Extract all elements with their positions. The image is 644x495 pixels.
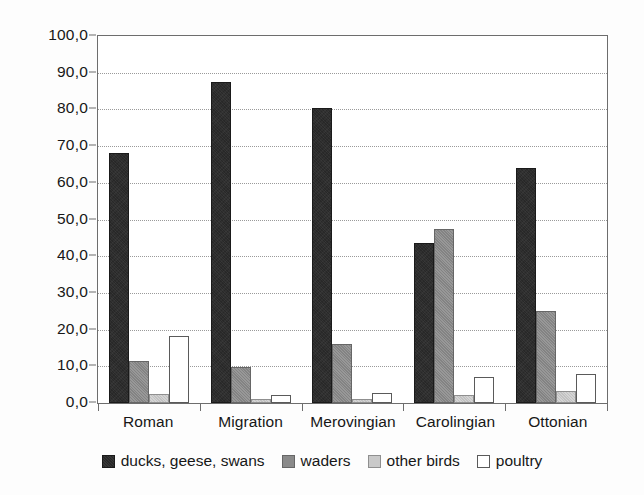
y-axis-tick-mark	[89, 328, 96, 329]
bar-group-bars	[98, 36, 200, 403]
bar	[454, 395, 474, 403]
y-axis-tick-label: 60,0	[57, 173, 88, 191]
legend-item-label: waders	[301, 452, 351, 470]
bar-group	[200, 36, 302, 403]
y-axis-tick-label: 20,0	[57, 320, 88, 338]
bar-group	[302, 36, 404, 403]
x-axis-tick-mark	[200, 404, 201, 411]
y-axis-tick-mark	[89, 181, 96, 182]
y-axis-tick-label: 90,0	[57, 63, 88, 81]
x-axis-tick-mark	[607, 404, 608, 411]
bar	[556, 391, 576, 403]
y-axis-tick-mark	[89, 255, 96, 256]
bar-group-bars	[302, 36, 404, 403]
bar	[576, 374, 596, 403]
legend-swatch-medium-gray	[282, 455, 295, 468]
legend-swatch-light-gray	[368, 455, 381, 468]
bar	[129, 361, 149, 403]
bar-group	[505, 36, 607, 403]
plot-area	[97, 35, 608, 404]
bar	[516, 168, 536, 403]
y-axis-tick-label: 70,0	[57, 136, 88, 154]
legend-item-label: ducks, geese, swans	[121, 452, 265, 470]
y-axis-tick-label: 80,0	[57, 99, 88, 117]
y-axis-tick-mark	[89, 402, 96, 403]
x-axis-tick-label: Roman	[97, 404, 199, 434]
y-axis-tick-mark	[89, 218, 96, 219]
y-axis-tick-label: 100,0	[48, 26, 88, 44]
x-axis-tick-mark	[403, 404, 404, 411]
bar	[169, 336, 189, 403]
bar	[414, 243, 434, 403]
legend-item: other birds	[368, 452, 460, 470]
bar	[109, 153, 129, 403]
bar	[332, 344, 352, 403]
bar-group-bars	[403, 36, 505, 403]
y-axis-tick-mark	[89, 35, 96, 36]
bar-groups	[98, 36, 607, 403]
bar-chart: 0,010,020,030,040,050,060,070,080,090,01…	[0, 0, 644, 495]
legend-item: waders	[282, 452, 351, 470]
y-axis-tick-mark	[89, 108, 96, 109]
bar	[352, 399, 372, 403]
x-axis-tick-label: Carolingian	[404, 404, 506, 434]
bar	[372, 393, 392, 403]
bar	[434, 229, 454, 403]
bar-group-bars	[200, 36, 302, 403]
y-axis-tick-mark	[89, 71, 96, 72]
bar-group	[98, 36, 200, 403]
legend-item-label: other birds	[387, 452, 460, 470]
bar-group-bars	[505, 36, 607, 403]
bar-group	[403, 36, 505, 403]
legend-swatch-dark	[102, 455, 115, 468]
x-axis-tick-label: Migration	[199, 404, 301, 434]
x-axis: RomanMigrationMerovingianCarolingianOtto…	[97, 404, 609, 434]
y-axis-tick-label: 10,0	[57, 356, 88, 374]
bar	[312, 108, 332, 403]
legend-item-label: poultry	[496, 452, 543, 470]
bar	[536, 311, 556, 403]
x-axis-tick-mark	[98, 404, 99, 411]
x-axis-tick-label: Ottonian	[507, 404, 609, 434]
legend-item: poultry	[477, 452, 543, 470]
x-axis-tick-mark	[302, 404, 303, 411]
y-axis-tick-label: 40,0	[57, 246, 88, 264]
bar	[149, 394, 169, 403]
legend-item: ducks, geese, swans	[102, 452, 265, 470]
bar	[271, 395, 291, 403]
x-axis-tick-mark	[505, 404, 506, 411]
y-axis-tick-mark	[89, 145, 96, 146]
y-axis: 0,010,020,030,040,050,060,070,080,090,01…	[0, 35, 88, 402]
bar	[251, 399, 271, 403]
y-axis-tick-label: 50,0	[57, 210, 88, 228]
bar	[474, 377, 494, 403]
y-axis-tick-mark	[89, 291, 96, 292]
bar	[211, 82, 231, 403]
x-axis-tick-label: Merovingian	[302, 404, 404, 434]
legend-swatch-white	[477, 455, 490, 468]
y-axis-tick-mark	[89, 365, 96, 366]
y-axis-tick-label: 0,0	[66, 393, 88, 411]
chart-legend: ducks, geese, swanswadersother birdspoul…	[0, 452, 644, 470]
bar	[231, 367, 251, 403]
y-axis-tick-label: 30,0	[57, 283, 88, 301]
